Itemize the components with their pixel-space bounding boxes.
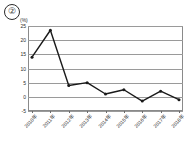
y-axis-tick-label: 20 bbox=[20, 38, 26, 43]
x-axis-tick-label: 2015年 bbox=[115, 114, 130, 129]
data-point bbox=[159, 90, 162, 93]
y-axis-tick-label: 5 bbox=[23, 80, 26, 85]
data-point bbox=[178, 98, 181, 101]
y-axis-tick-label: 25 bbox=[20, 24, 26, 29]
series-line bbox=[28, 26, 183, 111]
y-axis-tick-label: 0 bbox=[23, 94, 26, 99]
chart-figure: ② (%) 2520151050-5 2010年2011年2012年2013年2… bbox=[0, 0, 191, 143]
x-axis-tick-mark bbox=[179, 111, 180, 113]
x-axis-tick-mark bbox=[161, 111, 162, 113]
data-point bbox=[141, 100, 144, 103]
figure-number-badge: ② bbox=[4, 4, 20, 20]
data-point bbox=[31, 56, 34, 59]
x-axis-tick-label: 2011年 bbox=[42, 114, 57, 129]
x-axis-tick-mark bbox=[69, 111, 70, 113]
x-axis-tick-mark bbox=[124, 111, 125, 113]
x-axis-tick-label: 2016年 bbox=[134, 114, 149, 129]
data-point bbox=[122, 88, 125, 91]
x-axis-tick-label: 2013年 bbox=[79, 114, 94, 129]
data-line bbox=[32, 30, 179, 101]
x-axis-tick-label: 2017年 bbox=[152, 114, 167, 129]
x-axis-tick-label: 2018年 bbox=[171, 114, 186, 129]
data-point bbox=[86, 81, 89, 84]
plot-area: 2520151050-5 2010年2011年2012年2013年2014年20… bbox=[28, 26, 183, 111]
data-point bbox=[49, 29, 52, 32]
x-axis-tick-label: 2010年 bbox=[24, 114, 39, 129]
x-axis-tick-label: 2014年 bbox=[97, 114, 112, 129]
x-axis-tick-mark bbox=[32, 111, 33, 113]
data-point bbox=[104, 93, 107, 96]
x-axis-tick-mark bbox=[106, 111, 107, 113]
y-axis-tick-label: 10 bbox=[20, 66, 26, 71]
x-axis-tick-label: 2012年 bbox=[60, 114, 75, 129]
y-axis-tick-label: 15 bbox=[20, 52, 26, 57]
y-axis-tick-label: -5 bbox=[22, 109, 26, 114]
data-point bbox=[67, 84, 70, 87]
